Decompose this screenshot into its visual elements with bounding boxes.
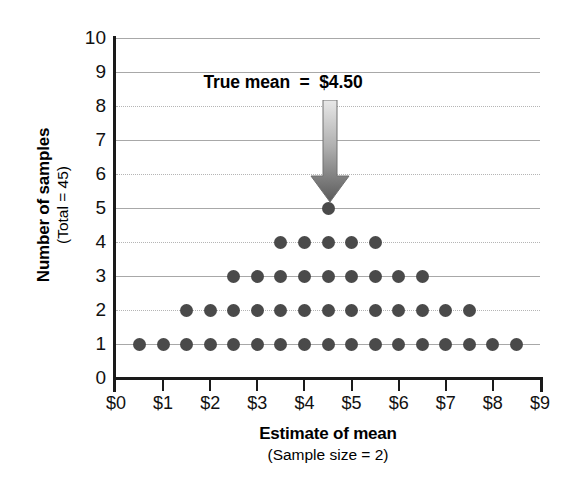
x-axis-title: Estimate of mean (Sample size = 2) (116, 423, 540, 466)
true-mean-annotation-label: True mean = $4.50 (133, 72, 433, 93)
x-tick-label: $2 (187, 394, 233, 412)
y-tick-label: 3 (72, 266, 106, 285)
data-point (369, 236, 382, 249)
data-point (345, 304, 358, 317)
y-axis-title-main: Number of samples (34, 55, 54, 355)
data-point (392, 304, 405, 317)
data-point (227, 270, 240, 283)
data-point (180, 304, 193, 317)
data-point (204, 338, 217, 351)
data-point (298, 270, 311, 283)
x-tick-label: $8 (470, 394, 516, 412)
data-point (298, 236, 311, 249)
x-tick-label: $0 (93, 394, 139, 412)
gridline (116, 38, 540, 39)
data-point (369, 270, 382, 283)
x-tick-label: $4 (281, 394, 327, 412)
y-axis-title-sub: (Total = 45) (54, 55, 72, 355)
data-point (322, 270, 335, 283)
data-point (298, 338, 311, 351)
data-point (369, 338, 382, 351)
x-tick (256, 378, 258, 391)
data-point (274, 236, 287, 249)
data-point (251, 304, 264, 317)
y-axis-line (113, 36, 116, 380)
data-point (251, 270, 264, 283)
x-tick-label: $3 (234, 394, 280, 412)
data-point (322, 304, 335, 317)
x-axis-end-tick (113, 377, 116, 392)
x-tick (303, 378, 305, 391)
y-tick-label: 7 (72, 130, 106, 149)
x-axis-title-sub: (Sample size = 2) (116, 445, 540, 465)
data-point (416, 338, 429, 351)
data-point (345, 338, 358, 351)
data-point (133, 338, 146, 351)
y-tick-label: 5 (72, 198, 106, 217)
data-point (274, 304, 287, 317)
data-point (416, 304, 429, 317)
data-point (439, 338, 452, 351)
data-point (392, 270, 405, 283)
data-point (463, 338, 476, 351)
data-point (439, 304, 452, 317)
x-tick-label: $7 (423, 394, 469, 412)
data-point (227, 338, 240, 351)
data-point (180, 338, 193, 351)
data-point (322, 236, 335, 249)
y-tick-label: 2 (72, 300, 106, 319)
data-point (274, 270, 287, 283)
data-point (392, 338, 405, 351)
x-tick (162, 378, 164, 391)
x-tick-label: $9 (517, 394, 563, 412)
data-point (274, 338, 287, 351)
data-point (463, 304, 476, 317)
y-tick-label: 0 (72, 368, 106, 387)
x-axis-title-main: Estimate of mean (116, 423, 540, 445)
x-tick (398, 378, 400, 391)
y-tick-label: 10 (72, 28, 106, 47)
y-tick-label: 1 (72, 334, 106, 353)
data-point (251, 338, 264, 351)
data-point (345, 236, 358, 249)
x-tick-label: $1 (140, 394, 186, 412)
data-point (204, 304, 217, 317)
data-point (322, 338, 335, 351)
data-point (369, 304, 382, 317)
x-tick-label: $6 (376, 394, 422, 412)
data-point (227, 304, 240, 317)
y-tick-label: 8 (72, 96, 106, 115)
y-tick-label: 6 (72, 164, 106, 183)
y-tick-label: 4 (72, 232, 106, 251)
data-point (416, 270, 429, 283)
data-point (510, 338, 523, 351)
x-axis-line (113, 377, 542, 380)
x-axis-end-tick (540, 377, 543, 392)
x-tick (445, 378, 447, 391)
y-tick-label: 9 (72, 62, 106, 81)
down-arrow-icon (307, 100, 353, 204)
x-tick (351, 378, 353, 391)
data-point (486, 338, 499, 351)
chart-figure: Number of samples (Total = 45) 012345678… (0, 0, 576, 488)
data-point (298, 304, 311, 317)
x-tick (492, 378, 494, 391)
data-point (345, 270, 358, 283)
x-tick-label: $5 (329, 394, 375, 412)
x-tick (209, 378, 211, 391)
data-point (157, 338, 170, 351)
